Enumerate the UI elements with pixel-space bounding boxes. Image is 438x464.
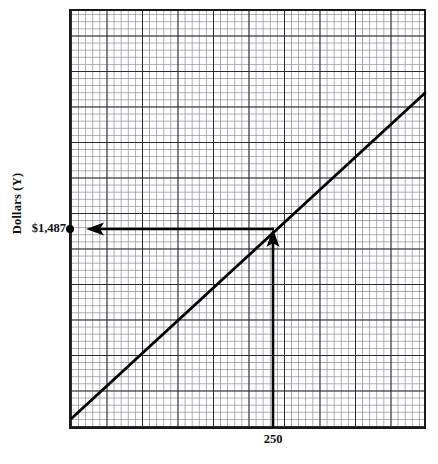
y-value-dot-marker	[66, 225, 74, 233]
grid-major	[70, 10, 425, 428]
y-value-label: $1,487	[22, 221, 66, 236]
x-tick-label-250: 250	[247, 432, 299, 447]
chart-figure: Dollars (Y) $1,487 250	[0, 0, 438, 464]
